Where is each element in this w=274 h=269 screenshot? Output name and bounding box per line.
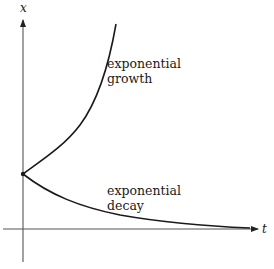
growth-label-line1: exponential [107, 57, 181, 71]
diagram-canvas [0, 0, 274, 269]
initial-point-dot [21, 172, 25, 176]
exponential-diagram: x t exponential growth exponential decay [0, 0, 274, 269]
y-axis-label: x [20, 1, 27, 15]
decay-label-line1: exponential [107, 184, 181, 198]
growth-curve [23, 24, 116, 174]
x-axis-label: t [262, 222, 267, 236]
growth-label-line2: growth [107, 72, 152, 86]
decay-label-line2: decay [107, 199, 144, 213]
